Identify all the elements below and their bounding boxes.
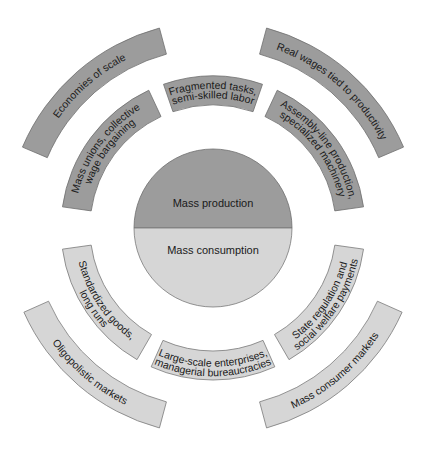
- mass-production-label: Mass production: [173, 197, 254, 209]
- mass-consumption-label: Mass consumption: [167, 244, 259, 256]
- mass-production-half: [134, 149, 292, 228]
- segment-label: Oligopolistic markets: [50, 337, 129, 407]
- center-circle: Mass production Mass consumption: [134, 149, 292, 307]
- segment-label: Economies of scale: [50, 51, 127, 120]
- segment-fragmented-tasks: Fragmented tasks,semi-skilled labor: [164, 76, 263, 112]
- mass-consumption-half: [134, 228, 292, 307]
- segment-standardized-goods: Standardized goods,long runs: [62, 245, 151, 360]
- segment-state-regulation: State regulation andsocial welfare payme…: [275, 245, 364, 360]
- segment-large-scale-enterprises: Large-scale enterprises,managerial burea…: [151, 340, 275, 380]
- fordism-diagram: Mass production Mass consumption Mass un…: [0, 0, 426, 452]
- diagram-canvas: Mass production Mass consumption Mass un…: [0, 0, 426, 452]
